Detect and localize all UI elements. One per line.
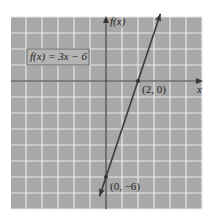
function-label: f(x) = 3x − 6: [30, 50, 87, 62]
point-y-intercept: [104, 175, 108, 179]
point-x-intercept: [136, 79, 140, 83]
function-graph: [0, 0, 210, 218]
y-axis-label: f(x): [110, 15, 125, 27]
x-axis-label: x: [197, 83, 202, 95]
point-label-x-intercept: (2, 0): [142, 83, 166, 95]
point-label-y-intercept: (0, −6): [110, 180, 140, 192]
